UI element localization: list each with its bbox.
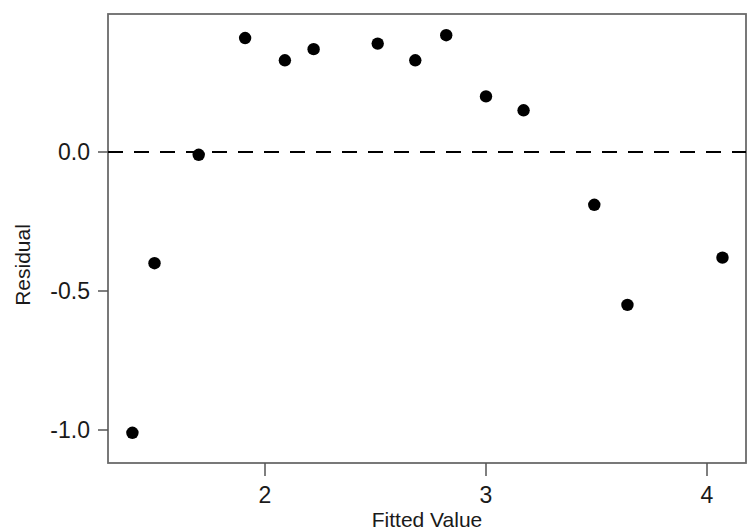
x-axis-title: Fitted Value (372, 508, 483, 531)
data-point (409, 54, 421, 66)
data-point (621, 299, 633, 311)
data-point (517, 104, 529, 116)
data-point (440, 29, 452, 41)
y-tick-label-1: -0.5 (50, 278, 90, 304)
data-point (279, 54, 291, 66)
y-tick-label-0: 0.0 (58, 139, 90, 165)
data-point (193, 149, 205, 161)
data-point (126, 427, 138, 439)
data-point (307, 43, 319, 55)
x-tick-label-1: 3 (480, 482, 493, 508)
chart-background (0, 0, 754, 532)
residual-scatter-chart: 0.0 -0.5 -1.0 2 3 4 Fitted Value Residua… (0, 0, 754, 532)
residual-plot-container: 0.0 -0.5 -1.0 2 3 4 Fitted Value Residua… (0, 0, 754, 532)
y-tick-label-2: -1.0 (50, 417, 90, 443)
data-point (480, 90, 492, 102)
data-point (239, 32, 251, 44)
data-point (372, 37, 384, 49)
x-tick-label-2: 4 (701, 482, 714, 508)
data-point (716, 251, 728, 263)
data-point (148, 257, 160, 269)
y-axis-title: Residual (11, 224, 34, 306)
x-tick-label-0: 2 (259, 482, 272, 508)
data-point (588, 199, 600, 211)
